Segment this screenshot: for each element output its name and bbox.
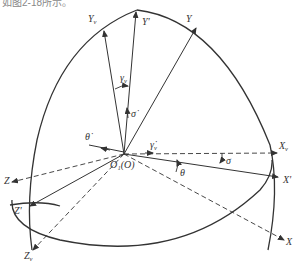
axis-X: [124, 154, 284, 240]
caption-fragment: 如图2-18所示。: [2, 0, 72, 8]
label-theta: θ: [180, 167, 185, 178]
gamma-v-arc: [115, 86, 128, 89]
sphere-outline: [10, 10, 275, 250]
label-Zv: Zv: [24, 250, 33, 262]
label-Yprime: Y': [142, 16, 151, 27]
label-sigma: σ: [226, 155, 232, 166]
label-Y: Y: [186, 13, 193, 24]
label-gamma-v-dot: γ̇v: [150, 139, 157, 151]
axis-Z: [12, 154, 124, 182]
sigma-arc: [220, 153, 222, 163]
label-theta-dot: θ̇: [85, 131, 93, 142]
axis-lines-dashed: [12, 153, 284, 250]
label-X: X: [285, 236, 293, 247]
axis-Yv: [104, 31, 124, 154]
labels: Yv Y' Y Xv X' X Z Z' Zv γv σ θ σ̇ θ̇ γ̇v…: [4, 13, 293, 262]
label-Zprime: Z': [14, 205, 23, 216]
label-Xv: Xv: [278, 140, 288, 152]
coordinate-rotation-diagram: 如图2-18所示。 Yv Y' Y Xv X': [0, 0, 299, 264]
label-sigma-dot: σ̇: [131, 108, 139, 119]
axis-lines-solid: [30, 12, 278, 206]
label-origin: O₁(O): [110, 159, 135, 171]
label-Z: Z: [4, 175, 10, 186]
label-Yv: Yv: [88, 13, 97, 25]
axis-Xprime: [124, 154, 278, 177]
label-gamma-v: γv: [120, 72, 127, 84]
theta-dot-line: [89, 145, 124, 152]
label-Xprime: X': [282, 174, 292, 185]
axis-Y: [124, 28, 196, 154]
